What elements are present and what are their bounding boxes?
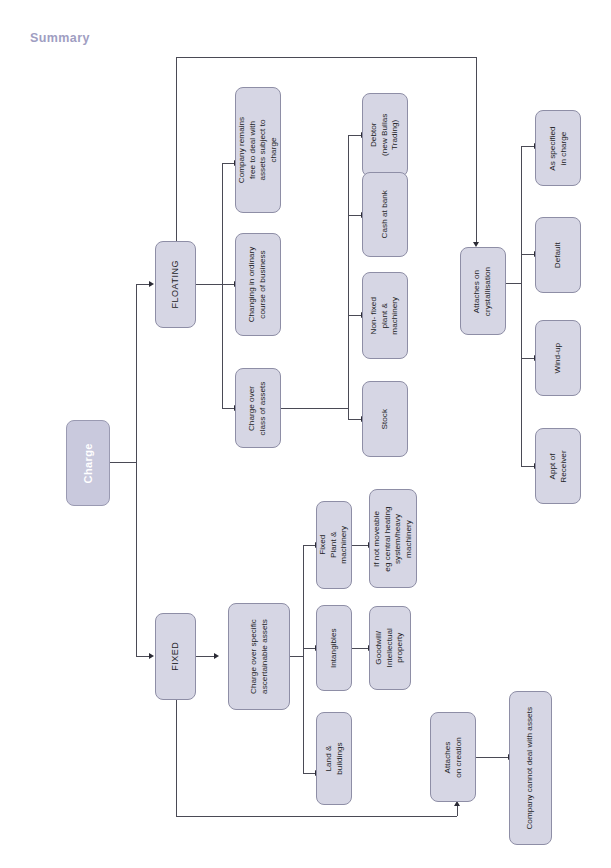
node-cash-at-bank-label: Cash at bank: [380, 190, 391, 238]
node-goodwill-intellectual-property-label: Goodwill/ Intellectual property: [374, 628, 406, 667]
node-fixed[interactable]: FIXED: [155, 613, 196, 700]
line-3: system/heavy: [393, 513, 402, 563]
line-1: Debtor: [369, 123, 378, 148]
line-1: Company remains: [237, 117, 246, 183]
node-goodwill-intellectual-property[interactable]: Goodwill/ Intellectual property: [369, 606, 411, 690]
node-cash-at-bank[interactable]: Cash at bank: [362, 172, 408, 257]
line-1: Land &: [324, 746, 333, 772]
line-2: eg central heating: [383, 506, 392, 571]
node-company-cannot-deal-with-assets-label: Company cannot deal with assets: [525, 707, 536, 830]
edge-class-debtor: [348, 135, 362, 136]
edge-floating-split: [222, 163, 223, 408]
edge-top-rail: [176, 57, 477, 58]
node-charge-over-class-of-assets[interactable]: Charge over class of assets: [235, 368, 281, 448]
line-2: crystallisation: [483, 266, 492, 315]
line-2: in charge: [558, 131, 567, 165]
line-2: buildings: [334, 742, 343, 774]
node-debtor-label: Debtor (new Bullas Trading): [369, 114, 401, 156]
node-charge[interactable]: Charge: [66, 420, 110, 506]
line-1: Goodwill/: [374, 631, 383, 665]
edge-charge-split: [136, 284, 137, 657]
node-non-fixed-plant-machinery-label: Non- fixed plant & machinery: [369, 297, 401, 335]
line-1: Fixed: [318, 535, 327, 555]
line-1: Charge over: [248, 385, 257, 430]
node-intangibles[interactable]: Intangibles: [316, 605, 352, 691]
node-default[interactable]: Default: [535, 217, 581, 293]
edge-specific-stub: [290, 656, 303, 657]
node-company-remains-free-label: Company remains free to deal with assets…: [237, 117, 279, 183]
edge-cryst-split: [521, 146, 522, 466]
node-appt-of-receiver-label: Appt of Receiver: [548, 450, 569, 482]
edge-charge-fixed: [136, 656, 150, 657]
node-floating[interactable]: FLOATING: [155, 241, 196, 328]
line-2: class of assets: [258, 381, 267, 435]
node-default-label: Default: [553, 242, 564, 268]
edge-specific-split: [303, 545, 304, 773]
node-debtor[interactable]: Debtor (new Bullas Trading): [362, 93, 408, 177]
line-2: Receiver: [558, 450, 567, 482]
line-3: property: [395, 633, 404, 663]
page-title: Summary: [30, 31, 90, 45]
line-1: Charge over specific: [249, 619, 258, 694]
line-4: machinery: [404, 520, 413, 558]
line-2: (new Bullas: [380, 114, 389, 156]
edge-fixed-specific: [196, 656, 215, 657]
line-3: machinery: [339, 526, 348, 564]
arrow-to-fixed: [149, 653, 154, 659]
edge-charge-floating: [136, 284, 150, 285]
line-2: course of business: [258, 250, 267, 318]
node-stock[interactable]: Stock: [362, 381, 408, 457]
line-2: ascertainable assets: [259, 619, 268, 694]
node-attaches-on-crystallisation-label: Attaches on crystallisation: [473, 266, 494, 315]
node-as-specified-in-charge[interactable]: As specified in charge: [535, 110, 581, 186]
line-2: free to deal with: [248, 121, 257, 179]
edge-class-stub: [281, 408, 348, 409]
edge-floating-stub: [196, 284, 222, 285]
node-as-specified-in-charge-label: As specified in charge: [548, 126, 569, 170]
line-1: If not moveable: [372, 510, 381, 566]
line-1: Attaches: [442, 741, 451, 773]
edge-down-to-crystallisation: [476, 57, 477, 243]
edge-bottom-rail: [176, 816, 457, 817]
edge-cryst-default: [521, 254, 535, 255]
node-attaches-on-crystallisation[interactable]: Attaches on crystallisation: [460, 247, 506, 335]
arrow-to-charge-specific: [214, 653, 219, 659]
edge-up-to-creation: [457, 805, 458, 816]
node-non-fixed-plant-machinery[interactable]: Non- fixed plant & machinery: [362, 272, 408, 359]
edge-fixed-down: [176, 700, 177, 816]
node-company-cannot-deal-with-assets[interactable]: Company cannot deal with assets: [509, 691, 552, 845]
node-land-buildings[interactable]: Land & buildings: [316, 712, 352, 805]
line-1: Changing in ordinary: [248, 247, 257, 323]
node-land-buildings-label: Land & buildings: [324, 742, 345, 774]
node-changing-ordinary-course[interactable]: Changing in ordinary course of business: [235, 233, 281, 336]
edge-fixedplant-ifnot: [352, 545, 369, 546]
node-wind-up[interactable]: Wind-up: [535, 320, 581, 396]
node-if-not-moveable[interactable]: If not moveable eg central heating syste…: [369, 489, 417, 588]
diagram-canvas: Summary: [0, 0, 611, 868]
node-charge-over-specific-assets[interactable]: Charge over specific ascertainable asset…: [228, 603, 290, 710]
line-3: machinery: [390, 297, 399, 335]
edge-cryst-windup: [521, 358, 535, 359]
node-changing-ordinary-course-label: Changing in ordinary course of business: [248, 247, 269, 323]
node-floating-label: FLOATING: [170, 260, 181, 308]
node-appt-of-receiver[interactable]: Appt of Receiver: [535, 428, 581, 504]
node-charge-over-class-of-assets-label: Charge over class of assets: [248, 381, 269, 435]
line-2: Plant &: [329, 532, 338, 558]
edge-class-split: [348, 135, 349, 420]
line-3: Trading): [390, 120, 399, 150]
edge-cryst-asspecified: [521, 146, 535, 147]
node-stock-label: Stock: [380, 409, 391, 430]
node-attaches-on-creation-label: Attaches on creation: [442, 737, 463, 778]
node-fixed-plant-machinery-label: Fixed Plant & machinery: [318, 526, 350, 564]
line-2: on creation: [453, 737, 462, 778]
arrow-to-floating: [149, 281, 154, 287]
edge-cryst-appt: [521, 466, 535, 467]
edge-class-cash: [348, 215, 362, 216]
edge-cryst-stub: [506, 283, 521, 284]
node-fixed-plant-machinery[interactable]: Fixed Plant & machinery: [316, 501, 352, 589]
line-1: As specified: [548, 126, 557, 170]
line-2: plant &: [380, 303, 389, 329]
node-company-remains-free[interactable]: Company remains free to deal with assets…: [235, 87, 281, 213]
line-1: Non- fixed: [369, 297, 378, 334]
node-attaches-on-creation[interactable]: Attaches on creation: [430, 712, 476, 802]
